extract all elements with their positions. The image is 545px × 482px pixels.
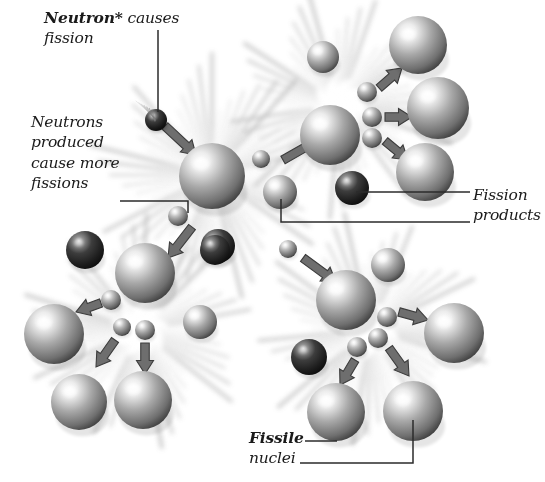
label-fissile-line2: nuclei: [249, 449, 296, 467]
label-fissile-bold: Fissile: [249, 428, 304, 447]
label-neutron-bold: Neutron*: [44, 8, 123, 27]
diagram-canvas: [0, 0, 545, 482]
fissile-nucleus-n-bl-b: [51, 374, 109, 436]
label-neutron-line2: fission: [44, 29, 93, 47]
fissile-nucleus-n-br-a: [424, 303, 486, 370]
label-fp-line1: Fission: [473, 186, 528, 204]
label-neutron-causes-fission: Neutron* causes fission: [44, 8, 179, 49]
fission-product-fp-tr: [335, 171, 370, 209]
neutron-nu-c3: [279, 240, 298, 260]
label-np-line1: Neutrons: [31, 113, 103, 131]
fissile-nucleus-n-br-b: [307, 383, 367, 447]
label-neutron-rest: causes: [123, 9, 180, 27]
fissile-nucleus-n-tr-b: [407, 77, 471, 146]
label-neutrons-produced: Neutrons produced cause more fissions: [31, 112, 120, 194]
fissile-nucleus-n-tr-c: [396, 143, 456, 207]
label-fission-products: Fission products: [473, 185, 541, 226]
label-fp-line2: products: [473, 206, 541, 224]
label-np-line4: fissions: [31, 174, 88, 192]
fission-product-fp-bl: [66, 231, 105, 273]
label-np-line3: cause more: [31, 154, 120, 172]
fissile-nuclei-group: [24, 16, 486, 448]
label-fissile-nuclei: Fissile nuclei: [249, 428, 304, 469]
label-np-line2: produced: [31, 133, 104, 151]
fission-chain-reaction-diagram: Neutron* causes fission Neutrons produce…: [0, 0, 545, 482]
fissile-nucleus-n-bl-c: [114, 371, 174, 435]
fissile-nucleus-n-bl-a: [24, 304, 86, 371]
